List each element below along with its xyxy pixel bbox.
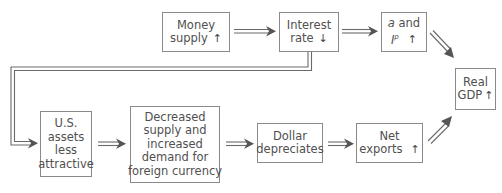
node-label-row: supply↑	[170, 32, 222, 46]
node-label: U.S.	[54, 117, 77, 131]
arrow-up-icon: ↑	[411, 143, 420, 156]
arrow-up-icon: ↑	[484, 89, 493, 102]
variable-a: a	[388, 16, 395, 30]
node-label: Money	[177, 19, 215, 33]
node-dollar-depreciates: Dollar depreciates	[257, 123, 323, 163]
node-label-row: Ip↑	[391, 31, 417, 47]
node-label: depreciates	[256, 143, 323, 157]
superscript-p: p	[394, 33, 398, 41]
arrow-net-exports-to-gdp	[428, 116, 452, 144]
node-money-supply: Money supply↑	[162, 12, 230, 52]
node-label: Dollar	[273, 130, 307, 144]
arrow-currency-to-dollar	[226, 139, 254, 150]
node-interest-rate: Interest rate↓	[279, 12, 339, 52]
node-label-row: a and	[388, 17, 420, 31]
node-consumption-investment: a and Ip↑	[381, 12, 427, 52]
node-label: GDP	[458, 88, 483, 102]
node-label: and	[395, 16, 420, 30]
arrow-dollar-to-net-exports	[328, 139, 354, 150]
arrow-up-icon: ↑	[213, 32, 222, 45]
arrow-money-to-interest	[234, 26, 276, 37]
node-label: attractive	[38, 158, 94, 172]
node-label: supply	[170, 31, 208, 45]
node-label: Net	[379, 130, 399, 144]
arrow-us-assets-to-currency	[98, 139, 126, 150]
arrow-interest-to-investment	[342, 26, 378, 37]
node-us-assets: U.S. assets less attractive	[40, 111, 92, 177]
node-label: rate	[290, 31, 313, 45]
node-label: less	[55, 144, 77, 158]
node-label: Interest	[287, 19, 331, 33]
node-label: increased	[147, 138, 203, 152]
node-real-gdp: Real GDP↑	[455, 68, 496, 110]
node-label: exports	[359, 142, 402, 156]
node-label: assets	[48, 131, 85, 145]
node-label-row: GDP↑	[458, 89, 494, 103]
arrow-investment-to-gdp	[430, 31, 454, 59]
node-foreign-currency: Decreased supply and increased demand fo…	[130, 106, 220, 183]
node-label: demand for	[142, 151, 209, 165]
node-label: supply and	[143, 124, 206, 138]
node-label-row: rate↓	[290, 32, 328, 46]
node-label: Real	[463, 76, 488, 90]
node-label-row: exports↑	[359, 143, 419, 157]
node-label: Decreased	[144, 111, 205, 125]
arrow-up-icon: ↑	[408, 33, 417, 46]
arrow-down-icon: ↓	[319, 32, 328, 45]
node-label: foreign currency	[128, 165, 222, 179]
node-net-exports: Net exports↑	[356, 123, 423, 163]
